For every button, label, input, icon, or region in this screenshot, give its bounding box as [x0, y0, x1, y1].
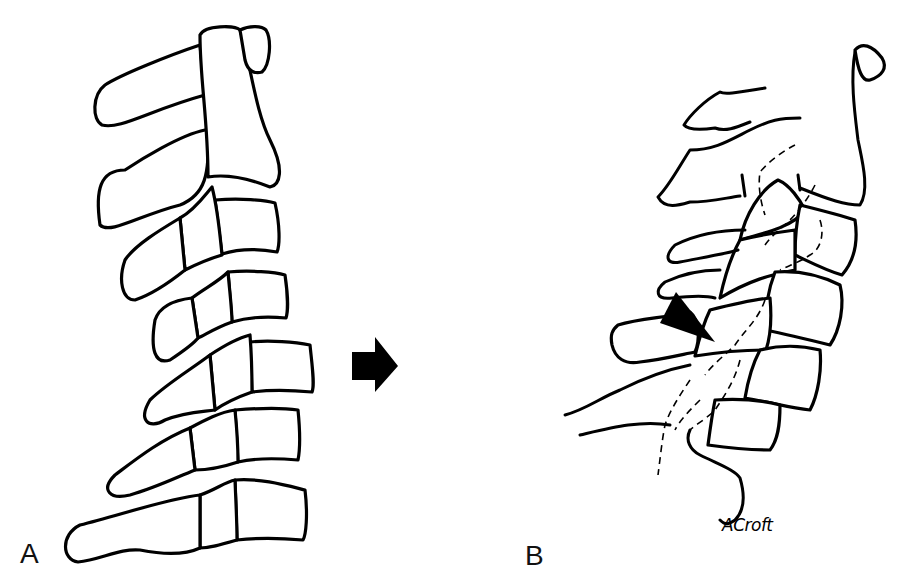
- artist-signature: ACroft: [722, 515, 773, 535]
- panel-a-normal-spine: [66, 27, 314, 562]
- panel-label-a: A: [20, 538, 39, 570]
- panel-label-b: B: [525, 540, 544, 572]
- spine-illustration: [0, 0, 905, 586]
- right-arrow-icon: [352, 337, 398, 392]
- panel-b-injured-spine: [565, 46, 884, 524]
- spine-figure: A B ACroft: [0, 0, 905, 586]
